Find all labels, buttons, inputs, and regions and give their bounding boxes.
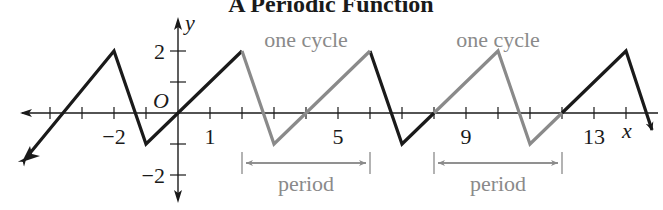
- periodic-function-chart: A Periodic Function: [0, 0, 663, 210]
- curve-right-segment: [562, 51, 652, 130]
- period-labels: period period: [278, 171, 526, 196]
- cycle-label-1: one cycle: [264, 27, 348, 52]
- tick-labels: −2 1 5 9 13 2 −2 O y x: [102, 10, 632, 188]
- cycle-labels: one cycle one cycle: [264, 27, 540, 52]
- highlighted-cycle-2: [434, 51, 562, 144]
- y-tick-label-neg2: −2: [142, 163, 165, 188]
- x-tick-label-9: 9: [461, 124, 472, 149]
- origin-label: O: [153, 88, 169, 113]
- x-tick-label-13: 13: [583, 124, 605, 149]
- curve-left-arrow-icon: [22, 146, 40, 162]
- x-tick-label-1: 1: [205, 124, 216, 149]
- highlighted-cycles: [242, 51, 562, 144]
- y-axis-label: y: [183, 10, 195, 35]
- x-tick-label-5: 5: [333, 124, 344, 149]
- curve-middle-segment: [370, 51, 434, 144]
- highlighted-cycle-1: [242, 51, 370, 144]
- y-tick-label-2: 2: [154, 39, 165, 64]
- cycle-label-2: one cycle: [456, 27, 540, 52]
- x-tick-label-neg2: −2: [102, 124, 125, 149]
- period-label-2: period: [470, 171, 526, 196]
- period-label-1: period: [278, 171, 334, 196]
- chart-title: A Periodic Function: [228, 0, 433, 17]
- x-axis-label: x: [621, 118, 632, 143]
